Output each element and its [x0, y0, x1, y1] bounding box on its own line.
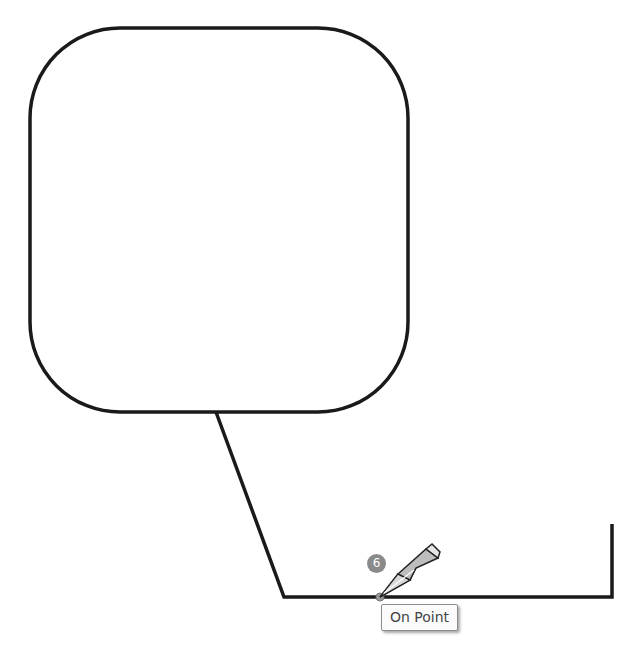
drawing-canvas[interactable]: 6 On Point: [0, 0, 638, 659]
rounded-rectangle-shape[interactable]: [30, 28, 408, 412]
step-number-badge: 6: [367, 554, 386, 573]
snap-tooltip: On Point: [381, 604, 458, 631]
pencil-icon: [380, 544, 440, 597]
sketch-geometry: [0, 0, 638, 659]
